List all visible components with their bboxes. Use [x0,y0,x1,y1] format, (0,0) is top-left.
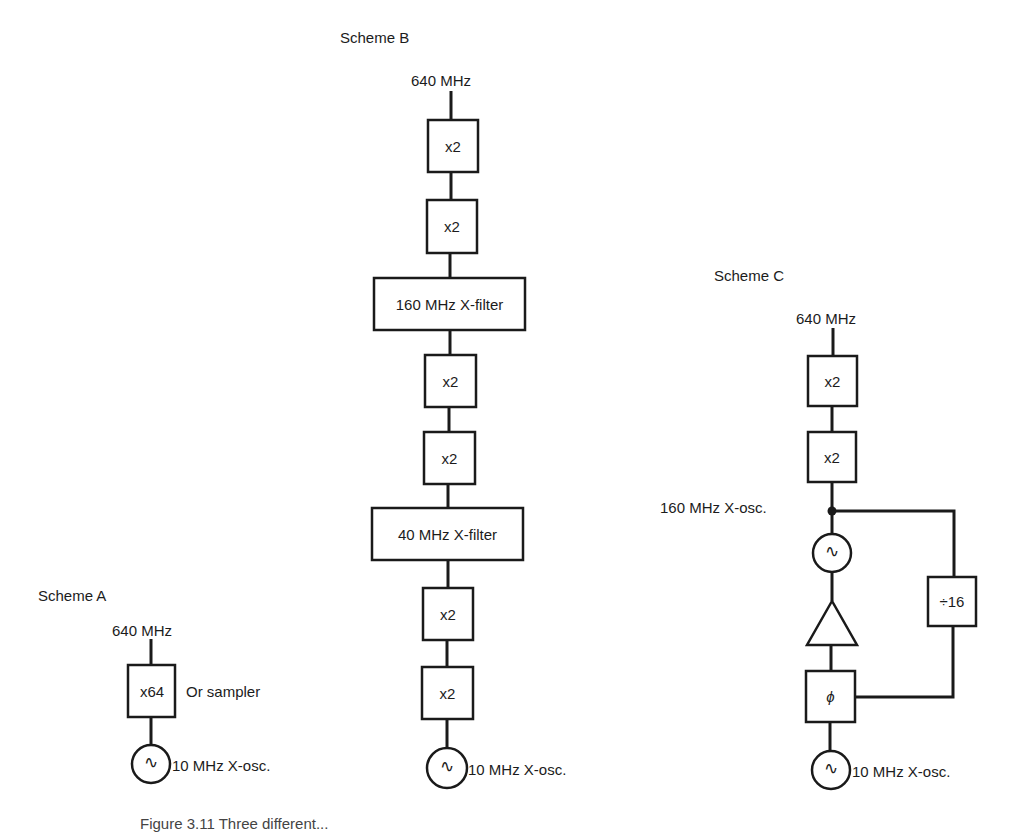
feedback-wire [855,626,953,697]
filter-160-label: 160 MHz X-filter [374,297,525,312]
vco-label: 160 MHz X-osc. [660,500,767,515]
scheme-a-title: Scheme A [38,588,106,603]
x2-label: x2 [423,607,473,622]
scheme-c-oscillator-label: 10 MHz X-osc. [852,764,950,779]
oscillator-symbol: ∿ [437,758,457,775]
x2-label: x2 [424,451,475,466]
scheme-c-output-label: 640 MHz [796,311,856,326]
oscillator-symbol: ∿ [822,543,842,560]
phase-detector-label: ϕ [806,689,855,704]
oscillator-symbol: ∿ [141,754,161,771]
scheme-b-output-label: 640 MHz [411,73,471,88]
scheme-a-output-label: 640 MHz [112,623,172,638]
oscillator-symbol: ∿ [821,760,841,777]
scheme-b-diagram [372,91,525,788]
figure-caption: Figure 3.11 Three different... [140,815,328,832]
amplifier-triangle-icon [807,601,857,645]
scheme-a-oscillator-label: 10 MHz X-osc. [172,758,270,773]
junction-dot [828,507,837,516]
scheme-b-title: Scheme B [340,30,409,45]
x2-label: x2 [428,139,478,154]
scheme-c-title: Scheme C [714,268,784,283]
x2-label: x2 [422,686,473,701]
x2-label: x2 [808,450,856,465]
filter-40-label: 40 MHz X-filter [372,527,523,542]
sampler-note: Or sampler [186,684,260,699]
divider-label: ÷16 [928,594,976,609]
feedback-wire [832,511,954,577]
x2-label: x2 [808,374,857,389]
scheme-b-oscillator-label: 10 MHz X-osc. [468,762,566,777]
x64-label: x64 [133,684,171,699]
x2-label: x2 [425,374,476,389]
x2-label: x2 [427,219,477,234]
